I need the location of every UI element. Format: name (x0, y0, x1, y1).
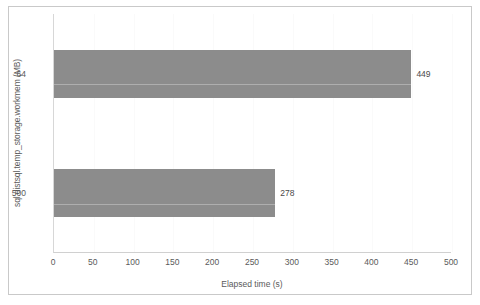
x-tick-label-450: 450 (404, 257, 418, 267)
x-tick-label-50: 50 (88, 257, 97, 267)
bar-row: 278 (54, 169, 451, 217)
y-tick-label-500: 500 (12, 188, 26, 198)
x-tick-label-350: 350 (325, 257, 339, 267)
gridline (452, 14, 453, 252)
x-tick-label-300: 300 (285, 257, 299, 267)
x-tick-label-200: 200 (205, 257, 219, 267)
bar-chart-figure: sql.distsql.temp_storage.workmem (MB) 64… (0, 0, 480, 305)
bar-row: 449 (54, 50, 451, 98)
y-tick-label-64: 64 (17, 69, 26, 79)
x-tick-label-100: 100 (126, 257, 140, 267)
bar-value-label-278: 278 (280, 188, 294, 198)
x-tick-label-0: 0 (51, 257, 56, 267)
x-tick-label-500: 500 (444, 257, 458, 267)
x-tick-label-150: 150 (165, 257, 179, 267)
x-axis-title: Elapsed time (s) (53, 279, 451, 289)
bar-64[interactable] (54, 50, 411, 98)
bar-500[interactable] (54, 169, 275, 217)
x-tick-label-400: 400 (364, 257, 378, 267)
plot-area: 449 278 (53, 14, 451, 253)
x-tick-label-250: 250 (245, 257, 259, 267)
bar-value-label-449: 449 (416, 69, 430, 79)
